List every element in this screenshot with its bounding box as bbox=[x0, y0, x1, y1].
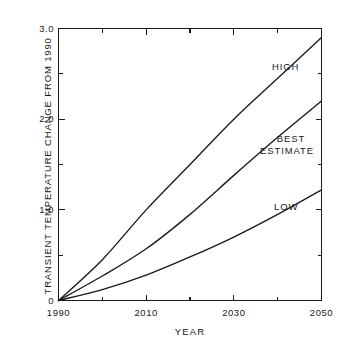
series-lines bbox=[59, 38, 322, 301]
x-tick-label: 2050 bbox=[310, 308, 333, 318]
series-label-best-estimate-line1: BEST bbox=[277, 133, 305, 144]
x-axis-title: YEAR bbox=[175, 326, 205, 337]
series-label-high: HIGH bbox=[272, 61, 299, 73]
temperature-projection-chart: 01.02.03.0 1990201020302050 YEAR TRANSIE… bbox=[0, 0, 342, 349]
x-tick-label: 2030 bbox=[222, 308, 245, 318]
y-axis-title: TRANSIENT TEMPERATURE CHANGE FROM 1990 bbox=[42, 45, 53, 295]
y-tick-label: 0 bbox=[14, 296, 54, 306]
series-line-high bbox=[59, 38, 322, 301]
y-tick-label: 3.0 bbox=[14, 24, 54, 34]
series-label-best-estimate: BEST ESTIMATE bbox=[268, 133, 314, 156]
series-label-best-estimate-line2: ESTIMATE bbox=[260, 145, 314, 157]
x-tick-label: 1990 bbox=[47, 308, 70, 318]
series-label-low: LOW bbox=[274, 201, 298, 213]
x-tick-label: 2010 bbox=[134, 308, 157, 318]
